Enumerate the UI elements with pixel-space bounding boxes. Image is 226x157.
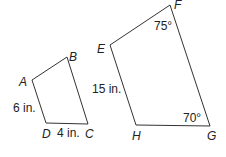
vertex-label-e: E: [97, 42, 106, 56]
side-label-eh: 15 in.: [92, 82, 121, 96]
side-label-dc: 4 in.: [57, 126, 80, 140]
vertex-label-a: A: [18, 75, 27, 89]
vertex-label-h: H: [132, 129, 141, 143]
quadrilateral-abcd: [32, 57, 88, 124]
angle-label-f: 75°: [154, 19, 172, 33]
vertex-label-b: B: [69, 50, 77, 64]
side-label-ad: 6 in.: [13, 101, 36, 115]
vertex-label-g: G: [207, 129, 216, 143]
similar-quadrilaterals-diagram: A B C D 6 in. 4 in. E F G H 15 in. 75° 7…: [0, 0, 226, 157]
angle-label-g: 70°: [183, 111, 201, 125]
vertex-label-f: F: [174, 0, 182, 12]
vertex-label-d: D: [42, 127, 51, 141]
vertex-label-c: C: [85, 127, 94, 141]
